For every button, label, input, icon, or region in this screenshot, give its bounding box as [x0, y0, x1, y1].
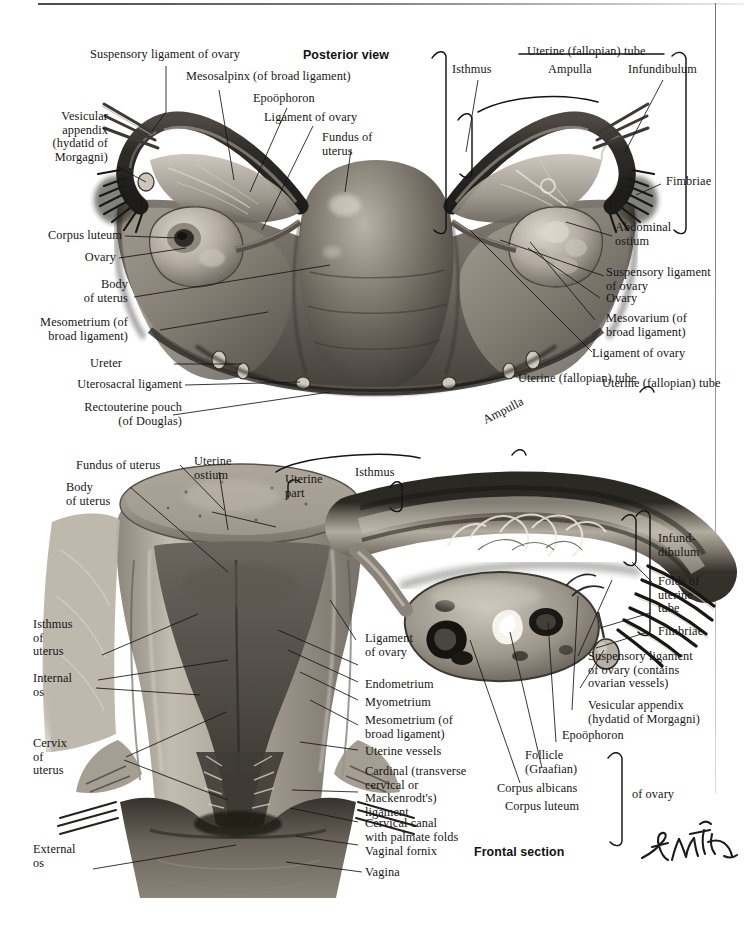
label-ligament-of-ovary-frontal: Ligament of ovary: [365, 632, 413, 659]
label-endometrium: Endometrium: [365, 678, 434, 692]
label-uterine-fallopian-tube-frontal: Uterine (fallopian) tube: [518, 372, 637, 386]
label-vesicular-appendix-frontal: Vesicular appendix (hydatid of Morgagni): [588, 699, 700, 726]
artist-signature: [636, 818, 744, 870]
label-rectouterine-pouch: Rectouterine pouch (of Douglas): [0, 401, 182, 428]
frontal-section-heading: Frontal section: [474, 845, 564, 859]
label-fundus-of-uterus: Fundus of uterus: [322, 131, 372, 158]
label-fundus-of-uterus-frontal: Fundus of uterus: [76, 459, 160, 473]
label-abdominal-ostium: Abdominal ostium: [615, 221, 671, 248]
label-body-of-uterus-frontal: Body of uterus: [66, 481, 110, 508]
label-uterine-fallopian-tube: Uterine (fallopian) tube: [527, 45, 646, 59]
label-cervix-of-uterus: Cervix of uterus: [33, 737, 67, 778]
label-uterosacral-ligament: Uterosacral ligament: [0, 378, 182, 392]
label-vagina: Vagina: [365, 866, 400, 880]
label-uterine-part: Uterine part: [285, 473, 323, 500]
label-ovary: Ovary: [0, 251, 116, 265]
label-ligament-of-ovary: Ligament of ovary: [264, 111, 357, 125]
label-isthmus: Isthmus: [452, 63, 492, 77]
label-folds-of-uterine-tube: Folds of uterine tube: [658, 575, 699, 616]
label-ovary-right: Ovary: [606, 292, 637, 306]
label-suspensory-ligament-of-ovary: Suspensory ligament of ovary: [0, 48, 240, 62]
label-uterine-ostium: Uterine ostium: [194, 455, 232, 482]
label-mesovarium: Mesovarium (of broad ligament): [606, 312, 687, 339]
label-body-of-uterus: Body of uterus: [0, 278, 128, 305]
label-uterine-vessels: Uterine vessels: [365, 745, 441, 759]
label-myometrium: Myometrium: [365, 696, 431, 710]
label-mesometrium-frontal: Mesometrium (of broad ligament): [365, 714, 453, 741]
posterior-view-heading: Posterior view: [303, 48, 389, 62]
label-corpus-luteum: Corpus luteum: [0, 229, 122, 243]
label-corpus-albicans: Corpus albicans: [497, 782, 577, 796]
label-of-ovary-brace: of ovary: [632, 788, 674, 802]
label-corpus-luteum-frontal: Corpus luteum: [505, 800, 579, 814]
label-ligament-of-ovary-right: Ligament of ovary: [592, 347, 685, 361]
label-internal-os: Internal os: [33, 672, 72, 699]
label-epoophoron-frontal: Epoöphoron: [562, 729, 624, 743]
label-epoophoron: Epoöphoron: [253, 92, 315, 106]
label-vesicular-appendix: Vesicular appendix (hydatid of Morgagni): [0, 110, 108, 164]
label-isthmus-frontal: Isthmus: [355, 466, 395, 480]
label-mesosalpinx: Mesosalpinx (of broad ligament): [186, 70, 351, 84]
label-suspensory-ligament-of-ovary-right: Suspensory ligament of ovary: [606, 266, 711, 293]
label-isthmus-of-uterus: Isthmus of uterus: [33, 618, 73, 659]
label-ampulla: Ampulla: [548, 63, 592, 77]
label-follicle-graafian: Follicle (Graafian): [525, 749, 577, 776]
label-ureter: Ureter: [0, 357, 122, 371]
label-fimbriae: Fimbriae: [666, 175, 711, 189]
anatomy-plate: Posterior view Suspensory ligament of ov…: [0, 0, 753, 928]
label-suspensory-ligament-contains-vessels: Suspensory ligament of ovary (contains o…: [588, 650, 693, 691]
label-infundibulum: Infundibulum: [628, 63, 697, 77]
label-cervical-canal: Cervical canal with palmate folds: [365, 817, 458, 844]
label-external-os: External os: [33, 843, 75, 870]
label-cardinal-ligament: Cardinal (transverse cervical or Mackenr…: [365, 765, 466, 819]
label-infundibulum-frontal: Infund- dibulum: [658, 532, 700, 559]
label-vaginal-fornix: Vaginal fornix: [365, 845, 437, 859]
label-fimbriae-frontal: Fimbriae: [658, 625, 703, 639]
label-mesometrium: Mesometrium (of broad ligament): [0, 316, 128, 343]
